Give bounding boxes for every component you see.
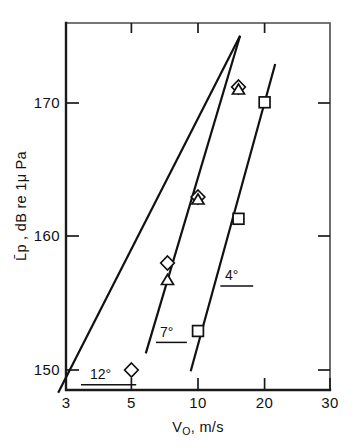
x-tick-labels: 3 5 10 20 30: [62, 394, 339, 411]
y-tick-labels: 150 160 170: [34, 94, 60, 378]
x-tick-label-3: 3: [62, 394, 71, 411]
data-point-square: [233, 213, 244, 224]
x-tick-label-20: 20: [256, 394, 274, 411]
annotation-label-7deg: 7°: [160, 324, 173, 340]
annotation-label-12deg: 12°: [90, 366, 111, 382]
series-7deg-markers: [162, 84, 245, 285]
x-axis-title: VO, m/s: [172, 419, 223, 437]
y-tick-label-170: 170: [34, 94, 60, 111]
series-4deg-markers: [193, 97, 270, 337]
annotation-label-4deg: 4°: [225, 267, 238, 283]
data-point-square: [193, 326, 204, 337]
x-tick-label-30: 30: [321, 394, 339, 411]
scatter-plot-svg: 3 5 10 20 30 150 160 170 VO, m/s L̄p , d…: [0, 0, 354, 448]
y-axis-title: L̄p , dB re 1μ Pa: [13, 150, 29, 261]
x-tick-label-5: 5: [127, 394, 136, 411]
y-tick-label-150: 150: [34, 361, 60, 378]
data-point-square: [259, 97, 270, 108]
chart-figure: 3 5 10 20 30 150 160 170 VO, m/s L̄p , d…: [0, 0, 354, 448]
data-point-triangle: [162, 275, 174, 285]
x-tick-label-10: 10: [189, 394, 207, 411]
data-point-diamond: [125, 363, 139, 377]
y-tick-label-160: 160: [34, 227, 60, 244]
